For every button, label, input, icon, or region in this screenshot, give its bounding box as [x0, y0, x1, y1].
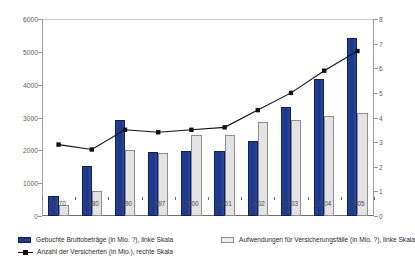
y-tick-mark-right: [374, 142, 378, 143]
x-tick-label: 2001: [208, 200, 241, 207]
x-tick-label: 2002: [241, 200, 274, 207]
y-tick-label-left: 0: [8, 213, 38, 220]
y-tick-mark-left: [38, 19, 42, 20]
x-tick-label: 2003: [274, 200, 307, 207]
y-tick-mark-right: [374, 118, 378, 119]
bar-gebuchte-bruttobetraege: [82, 166, 92, 216]
y-tick-mark-left: [38, 52, 42, 53]
y-tick-label-left: 3000: [8, 114, 38, 121]
x-tick-label: 1970: [42, 200, 75, 207]
legend-label-3: Anzahl der Versicherten (in Mio.), recht…: [37, 248, 173, 256]
y-tick-label-right: 8: [379, 16, 403, 23]
bar-gebuchte-bruttobetraege: [347, 38, 357, 216]
legend-item-gebuchte-bruttobetraege: Gebuchte Bruttobeträge (in Mio. ?), link…: [18, 236, 173, 244]
legend-swatch-grey: [221, 237, 234, 243]
y-tick-mark-right: [374, 191, 378, 192]
y-tick-label-left: 5000: [8, 48, 38, 55]
legend-item-aufwendungen: Aufwendungen für Versicherungsfälle (in …: [221, 236, 415, 244]
legend-label-2: Aufwendungen für Versicherungsfälle (in …: [239, 236, 415, 244]
y-tick-mark-right: [374, 19, 378, 20]
x-tick-label: 1980: [75, 200, 108, 207]
x-tick-mark: [308, 197, 309, 200]
x-tick-mark: [142, 197, 143, 200]
y-tick-mark-right: [374, 68, 378, 69]
x-tick-mark: [374, 197, 375, 200]
y-tick-mark-left: [38, 183, 42, 184]
x-tick-label: 1990: [108, 200, 141, 207]
x-tick-mark: [175, 197, 176, 200]
x-tick-mark: [341, 197, 342, 200]
x-tick-mark: [75, 197, 76, 200]
x-tick-mark: [241, 197, 242, 200]
y-tick-label-left: 6000: [8, 16, 38, 23]
y-tick-label-right: 5: [379, 89, 403, 96]
y-tick-label-right: 1: [379, 188, 403, 195]
x-tick-mark: [208, 197, 209, 200]
y-tick-mark-right: [374, 167, 378, 168]
plot-wrapper: 0100020003000400050006000 012345678 1970…: [0, 0, 415, 232]
y-tick-mark-left: [38, 85, 42, 86]
x-tick-mark: [274, 197, 275, 200]
chart-legend: Gebuchte Bruttobeträge (in Mio. ?), link…: [18, 236, 408, 268]
x-tick-mark: [108, 197, 109, 200]
x-tick-label: 1997: [142, 200, 175, 207]
y-tick-label-right: 2: [379, 163, 403, 170]
y-tick-mark-left: [38, 216, 42, 217]
x-tick-label: 2005: [341, 200, 374, 207]
legend-item-anzahl-versicherten: Anzahl der Versicherten (in Mio.), recht…: [18, 248, 173, 256]
chart-container: 0100020003000400050006000 012345678 1970…: [0, 0, 415, 273]
x-tick-label: 2000: [175, 200, 208, 207]
y-tick-mark-left: [38, 118, 42, 119]
y-tick-label-left: 1000: [8, 180, 38, 187]
x-tick-label: 2004: [308, 200, 341, 207]
legend-swatch-line-marker: [18, 249, 33, 256]
y-tick-label-right: 0: [379, 213, 403, 220]
bar-gebuchte-bruttobetraege: [314, 79, 324, 216]
y-tick-mark-right: [374, 216, 378, 217]
y-tick-label-left: 2000: [8, 147, 38, 154]
legend-label-1: Gebuchte Bruttobeträge (in Mio. ?), link…: [36, 236, 173, 244]
y-tick-mark-right: [374, 44, 378, 45]
y-tick-label-right: 3: [379, 139, 403, 146]
y-tick-label-right: 7: [379, 40, 403, 47]
y-tick-mark-left: [38, 150, 42, 151]
legend-swatch-blue: [18, 237, 31, 243]
y-tick-label-right: 6: [379, 65, 403, 72]
x-tick-mark: [42, 197, 43, 200]
y-tick-label-left: 4000: [8, 81, 38, 88]
y-tick-mark-right: [374, 93, 378, 94]
y-tick-label-right: 4: [379, 114, 403, 121]
